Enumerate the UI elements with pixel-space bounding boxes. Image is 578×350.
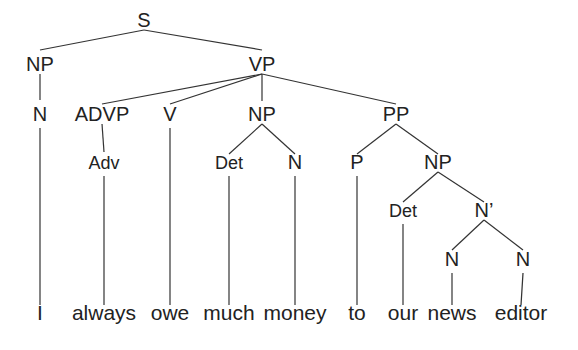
node-adv: Adv <box>88 154 119 172</box>
branch-np2-n2 <box>262 124 295 154</box>
word-our: our <box>388 302 418 323</box>
branch-np2-det1 <box>229 124 262 154</box>
branch-np3-nbar <box>438 172 484 202</box>
node-np2: NP <box>248 104 276 124</box>
node-n4: N <box>516 249 530 269</box>
node-np1: NP <box>26 54 54 74</box>
node-nbar: N’ <box>475 200 494 220</box>
word-money: money <box>263 302 326 323</box>
word-much: much <box>203 302 254 323</box>
branch-s-vp <box>144 30 262 50</box>
word-owe: owe <box>151 302 190 323</box>
node-s: S <box>137 10 150 30</box>
word-editor: editor <box>495 302 548 323</box>
branch-np3-det2 <box>403 172 438 202</box>
node-pp: PP <box>383 104 410 124</box>
node-n3: N <box>445 249 459 269</box>
node-p: P <box>350 152 363 172</box>
word-news: news <box>427 302 476 323</box>
node-det2: Det <box>389 202 417 220</box>
branch-s-np1 <box>40 30 144 50</box>
node-n2: N <box>288 152 302 172</box>
word-to: to <box>348 302 366 323</box>
node-advp: ADVP <box>75 104 129 124</box>
node-n1: N <box>33 104 47 124</box>
word-I: I <box>37 302 43 323</box>
syntax-tree-lines <box>0 0 578 350</box>
branch-pp-np3 <box>396 124 438 154</box>
branch-nbar-n3 <box>452 220 484 250</box>
node-np3: NP <box>424 152 452 172</box>
node-vp: VP <box>249 54 276 74</box>
branch-vp-pp <box>262 74 396 104</box>
branch-pp-p <box>357 124 396 154</box>
word-always: always <box>72 302 136 323</box>
branch-nbar-n4 <box>484 220 523 250</box>
node-v: V <box>163 104 176 124</box>
branch-advp-adv <box>102 124 104 152</box>
node-det1: Det <box>215 154 243 172</box>
